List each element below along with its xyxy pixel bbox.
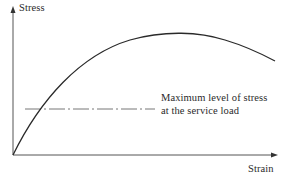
- x-axis-arrow-icon: [271, 153, 278, 158]
- service-stress-annotation: Maximum level of stress at the service l…: [161, 92, 267, 117]
- annotation-line-2: at the service load: [161, 105, 267, 118]
- annotation-line-1: Maximum level of stress: [161, 92, 267, 105]
- x-axis-label: Strain: [248, 163, 274, 174]
- stress-strain-diagram: [0, 0, 288, 180]
- y-axis-arrow-icon: [11, 6, 16, 13]
- y-axis-label: Stress: [19, 2, 45, 13]
